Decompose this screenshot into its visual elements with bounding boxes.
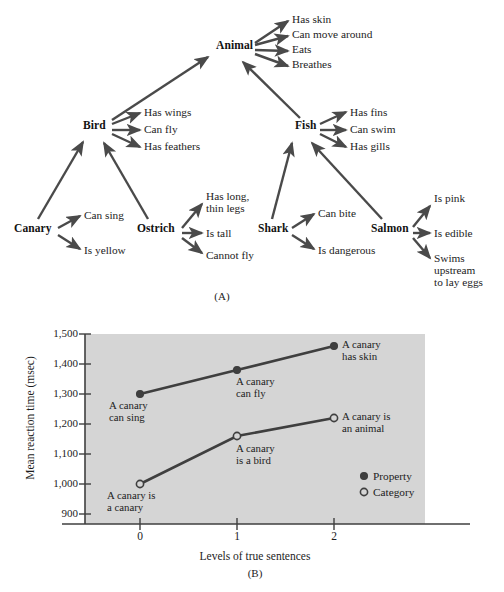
annotation-property-1-line2: can fly bbox=[236, 388, 266, 400]
annotation-category-1-line1: A canary bbox=[236, 443, 275, 455]
property-shark-is-dangerous: Is dangerous bbox=[318, 244, 375, 256]
legend-marker-category bbox=[360, 488, 367, 495]
node-ostrich[interactable]: Ostrich bbox=[137, 222, 175, 234]
property-animal-has-skin: Has skin bbox=[292, 13, 331, 25]
datapoint-property-2[interactable] bbox=[331, 343, 338, 350]
property-animal-can-move-around: Can move around bbox=[292, 28, 372, 40]
property-ostrich-has-long-thin-legs-line1: Has long, bbox=[206, 190, 249, 202]
property-ostrich-is-tall: Is tall bbox=[206, 227, 231, 239]
legend-marker-property bbox=[361, 473, 368, 480]
property-canary-can-sing: Can sing bbox=[84, 209, 124, 221]
datapoint-category-2[interactable] bbox=[330, 414, 337, 421]
annotation-property-1-line1: A canary bbox=[236, 376, 275, 388]
annotation-category-1-line2: is a bird bbox=[236, 455, 271, 467]
legend-label-category: Category bbox=[373, 486, 414, 498]
property-salmon-swims-upstream-line3: to lay eggs bbox=[434, 276, 483, 288]
node-canary[interactable]: Canary bbox=[14, 222, 52, 234]
annotation-category-0-line2: a canary bbox=[107, 502, 143, 514]
annotation-property-2-line1: A canary bbox=[342, 339, 381, 351]
annotation-category-0-line1: A canary is bbox=[107, 490, 156, 502]
property-salmon-is-edible: Is edible bbox=[434, 227, 473, 239]
property-shark-can-bite: Can bite bbox=[318, 207, 356, 219]
property-ostrich-cannot-fly: Cannot fly bbox=[206, 249, 254, 261]
property-fish-has-fins: Has fins bbox=[350, 106, 387, 118]
property-bird-can-fly: Can fly bbox=[144, 123, 178, 135]
annotation-category-2-line2: an animal bbox=[342, 423, 384, 435]
annotation-category-2-line1: A canary is bbox=[342, 411, 391, 423]
property-animal-breathes: Breathes bbox=[292, 58, 332, 70]
node-bird[interactable]: Bird bbox=[83, 119, 106, 131]
property-bird-has-feathers: Has feathers bbox=[144, 140, 200, 152]
property-ostrich-has-long-thin-legs-line2: thin legs bbox=[206, 202, 245, 214]
annotation-property-2-line2: has skin bbox=[342, 351, 377, 363]
property-canary-is-yellow: Is yellow bbox=[84, 244, 126, 256]
panel-b-chart: Mean reaction time (msec) Levels of true… bbox=[0, 312, 504, 592]
property-fish-can-swim: Can swim bbox=[350, 123, 396, 135]
panel-a-semantic-network: Animal Bird Fish Canary Ostrich Shark Sa… bbox=[0, 0, 504, 312]
legend-label-property: Property bbox=[373, 470, 412, 482]
datapoint-category-1[interactable] bbox=[233, 432, 240, 439]
property-bird-has-wings: Has wings bbox=[144, 106, 191, 118]
datapoint-category-0[interactable] bbox=[136, 480, 143, 487]
node-shark[interactable]: Shark bbox=[258, 222, 289, 234]
property-animal-eats: Eats bbox=[292, 43, 311, 55]
property-salmon-swims-upstream-line2: upstream bbox=[434, 264, 475, 276]
property-salmon-is-pink: Is pink bbox=[434, 192, 465, 204]
node-animal[interactable]: Animal bbox=[216, 39, 253, 51]
annotation-property-0-line1: A canary bbox=[109, 400, 148, 412]
panel-a-caption: (A) bbox=[192, 290, 252, 302]
node-fish[interactable]: Fish bbox=[295, 119, 317, 131]
datapoint-property-0[interactable] bbox=[137, 391, 144, 398]
panel-b-caption: (B) bbox=[225, 567, 285, 579]
property-salmon-swims-upstream-line1: Swims bbox=[434, 252, 465, 264]
datapoint-property-1[interactable] bbox=[234, 367, 241, 374]
annotation-property-0-line2: can sing bbox=[109, 412, 145, 424]
property-fish-has-gills: Has gills bbox=[350, 140, 390, 152]
node-salmon[interactable]: Salmon bbox=[371, 222, 409, 234]
figure-container: Animal Bird Fish Canary Ostrich Shark Sa… bbox=[0, 0, 504, 592]
